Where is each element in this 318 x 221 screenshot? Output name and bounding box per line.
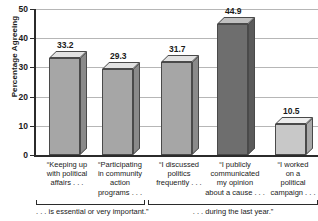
bracket-line [36,200,145,205]
category-label-line: affairs . . . [37,178,97,187]
group-brackets: . . . is essential or very important.”. … [0,200,318,221]
x-axis-category-labels: “Keeping upwith politicalaffairs . . .“P… [34,160,318,202]
category-label-line: action [89,178,151,187]
bracket-caption: . . . is essential or very important.” [36,207,145,216]
bar-value-label: 31.7 [169,44,186,54]
bar-front-face [275,124,306,155]
bar-side-face [80,51,87,155]
y-tick-label: 0 [23,150,28,160]
category-label-line: in community [89,169,151,178]
y-tick-label: 30 [19,62,28,72]
bar-front-face [217,24,248,155]
y-axis-title: Percentage Agreeing [10,7,19,107]
bar[interactable]: 33.2 [49,58,80,155]
bar-side-face [248,17,255,155]
bar-side-face [133,63,140,155]
bar-front-face [161,62,192,155]
bar-front-face [102,69,133,155]
y-tick-label: 50 [19,4,28,14]
x-axis-line [34,155,318,157]
x-axis-category-label: “Participatingin communityactionprograms… [89,160,151,197]
category-label-line: about a cause . . . [200,188,270,197]
bar[interactable]: 31.7 [161,62,192,155]
y-tick-label: 20 [19,92,28,102]
bracket-line [148,200,318,205]
x-axis-category-label: “Keeping upwith politicalaffairs . . . [37,160,97,188]
y-tick-label: 40 [19,33,28,43]
category-label-line: “Participating [89,160,151,169]
bar-top-face [49,51,87,58]
bar-value-label: 33.2 [57,40,74,50]
bar-front-face [49,58,80,155]
x-axis-category-label: “I workedon apoliticalcampaign . . . [264,160,318,197]
bar-side-face [192,56,199,155]
y-tick-label: 10 [19,121,28,131]
bar-value-label: 10.5 [283,106,300,116]
bar-value-label: 29.3 [110,51,127,61]
bracket-caption: . . . during the last year.” [148,207,318,216]
category-label-line: on a [264,169,318,178]
bar[interactable]: 10.5 [275,124,306,155]
bar-value-label: 44.9 [225,6,242,16]
plot-frame: 01020304050 33.229.331.744.910.5 [34,9,318,157]
category-label-line: “Keeping up [37,160,97,169]
plot-area: 01020304050 33.229.331.744.910.5 [34,9,318,157]
category-label-line: my opinion [200,178,270,187]
bar[interactable]: 44.9 [217,24,248,155]
category-label-line: political [264,178,318,187]
x-axis-category-label: “I publiclycommunicatedmy opinionabout a… [200,160,270,197]
category-label-line: with political [37,169,97,178]
gridline [34,38,318,39]
category-label-line: campaign . . . [264,188,318,197]
group-bracket-1: . . . is essential or very important.” [36,200,145,216]
group-bracket-2: . . . during the last year.” [148,200,318,216]
category-label-line: programs . . . [89,188,151,197]
category-label-line: “I worked [264,160,318,169]
bar[interactable]: 29.3 [102,69,133,155]
bar-chart: Percentage Agreeing 01020304050 33.229.3… [0,0,318,221]
category-label-line: “I publicly [200,160,270,169]
category-label-line: communicated [200,169,270,178]
bar-top-face [217,17,255,24]
gridline [34,9,318,10]
y-axis-line [34,9,36,157]
